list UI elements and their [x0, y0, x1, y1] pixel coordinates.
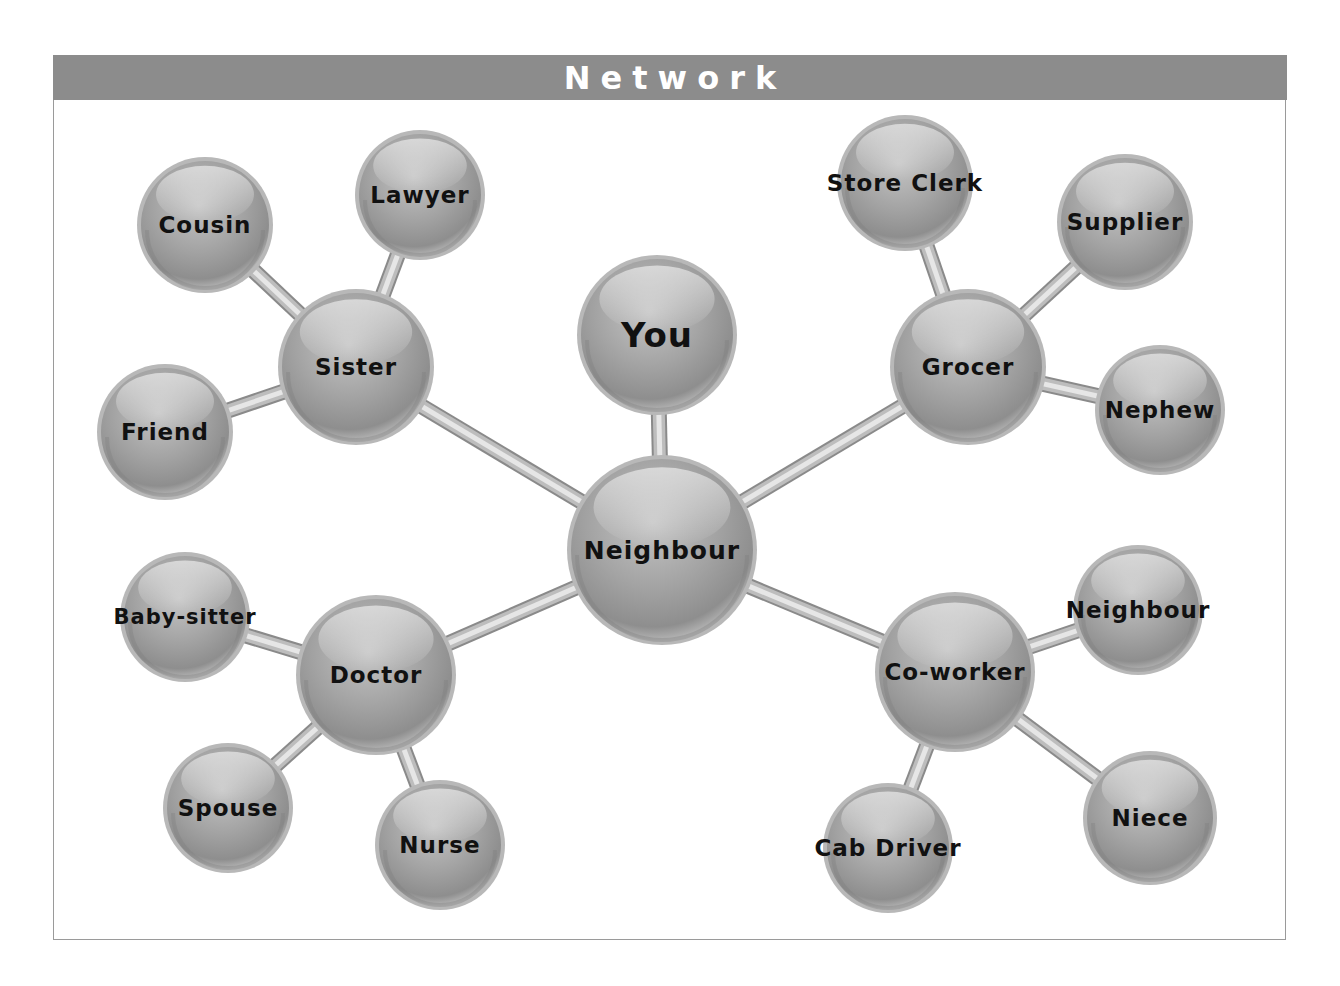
- node-friend: Friend: [97, 364, 233, 500]
- node-label: You: [620, 315, 693, 355]
- node-niece: Niece: [1083, 751, 1217, 885]
- node-store-clerk: Store Clerk: [827, 115, 983, 251]
- node-cab-driver: Cab Driver: [814, 783, 961, 913]
- node-doctor: Doctor: [296, 595, 456, 755]
- node-cousin: Cousin: [137, 157, 273, 293]
- node-label: Neighbour: [1066, 597, 1211, 623]
- node-label: Friend: [121, 419, 209, 445]
- node-label: Grocer: [922, 354, 1015, 380]
- nodes: YouNeighbourSisterCousinLawyerFriendGroc…: [97, 115, 1225, 913]
- node-nurse: Nurse: [375, 780, 505, 910]
- node-label: Cousin: [158, 212, 251, 238]
- node-spouse: Spouse: [163, 743, 293, 873]
- node-label: Supplier: [1067, 209, 1184, 235]
- node-nephew: Nephew: [1095, 345, 1225, 475]
- node-label: Lawyer: [370, 182, 469, 208]
- node-grocer: Grocer: [890, 289, 1046, 445]
- node-supplier: Supplier: [1057, 154, 1193, 290]
- node-label: Store Clerk: [827, 170, 983, 196]
- node-label: Nephew: [1105, 397, 1216, 423]
- node-label: Cab Driver: [814, 835, 961, 861]
- node-label: Doctor: [330, 662, 423, 688]
- node-label: Spouse: [178, 795, 279, 821]
- node-label: Sister: [315, 354, 397, 380]
- network-diagram: YouNeighbourSisterCousinLawyerFriendGroc…: [0, 0, 1340, 986]
- node-label: Neighbour: [584, 536, 740, 565]
- node-co-worker: Co-worker: [875, 592, 1035, 752]
- node-lawyer: Lawyer: [355, 130, 485, 260]
- node-neighbour-right: Neighbour: [1066, 545, 1211, 675]
- node-you: You: [577, 255, 737, 415]
- node-label: Co-worker: [884, 659, 1025, 685]
- node-sister: Sister: [278, 289, 434, 445]
- node-baby-sitter: Baby-sitter: [114, 552, 257, 682]
- node-label: Baby-sitter: [114, 605, 257, 629]
- node-neighbour-center: Neighbour: [567, 455, 757, 645]
- node-label: Niece: [1112, 805, 1189, 831]
- node-label: Nurse: [399, 832, 480, 858]
